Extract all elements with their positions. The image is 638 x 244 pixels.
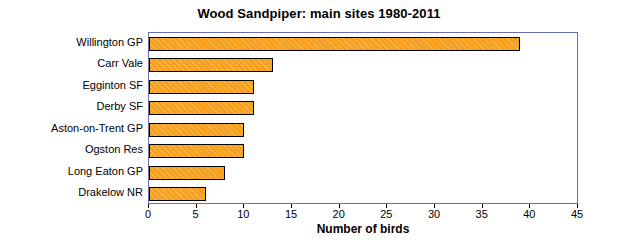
x-tick-label: 45	[571, 208, 583, 220]
bar	[149, 80, 254, 94]
chart-container: Wood Sandpiper: main sites 1980-2011 Wil…	[0, 0, 638, 244]
bar	[149, 144, 244, 158]
x-axis-ticks: 051015202530354045	[148, 204, 578, 224]
chart-title: Wood Sandpiper: main sites 1980-2011	[0, 6, 638, 21]
y-axis-category-labels: Willington GPCarr ValeEgginton SFDerby S…	[0, 32, 143, 204]
y-axis-label: Aston-on-Trent GP	[51, 122, 143, 134]
x-tick-label: 30	[428, 208, 440, 220]
bar	[149, 37, 520, 51]
y-axis-label: Egginton SF	[82, 79, 143, 91]
bar	[149, 123, 244, 137]
x-tick-label: 0	[145, 208, 151, 220]
x-tick-label: 35	[476, 208, 488, 220]
bars-layer	[149, 33, 577, 203]
x-axis-title: Number of birds	[148, 222, 578, 236]
y-axis-label: Ogston Res	[85, 143, 143, 155]
x-tick-label: 15	[285, 208, 297, 220]
y-axis-label: Derby SF	[97, 100, 143, 112]
bar	[149, 187, 206, 201]
bar	[149, 166, 225, 180]
x-tick-label: 5	[193, 208, 199, 220]
bar	[149, 58, 273, 72]
y-axis-label: Willington GP	[76, 36, 143, 48]
y-axis-label: Drakelow NR	[78, 186, 143, 198]
y-axis-label: Long Eaton GP	[68, 165, 143, 177]
x-tick-label: 10	[237, 208, 249, 220]
plot-area	[148, 32, 578, 204]
y-axis-label: Carr Vale	[97, 57, 143, 69]
x-tick-label: 25	[380, 208, 392, 220]
bar	[149, 101, 254, 115]
x-tick-label: 40	[523, 208, 535, 220]
x-tick-label: 20	[333, 208, 345, 220]
